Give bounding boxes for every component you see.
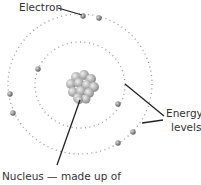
electron-label: Electron bbox=[19, 1, 62, 13]
nucleus-label: Nucleus — made up of bbox=[2, 170, 121, 182]
energy-levels-label-line1: Energy bbox=[166, 107, 201, 119]
atom-diagram bbox=[0, 0, 201, 185]
energy-levels-label-line2: levels bbox=[171, 121, 201, 133]
nucleus bbox=[66, 70, 99, 104]
